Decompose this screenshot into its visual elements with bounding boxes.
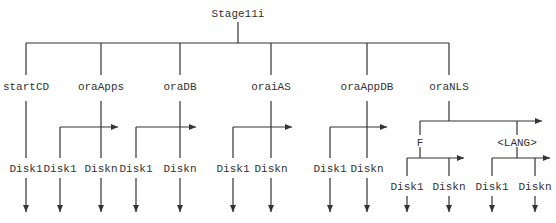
node-oraiAS: oraiAS (251, 81, 291, 93)
level1-connectors (26, 43, 449, 75)
startCD-disk1: Disk1 (9, 163, 42, 175)
oraNLS-LANG-disk1: Disk1 (475, 181, 508, 193)
oraNLS-subgroup-F: F (417, 137, 424, 149)
oraApps-diskn: Diskn (84, 163, 117, 175)
oraDB-branch (136, 101, 196, 212)
oraDB-diskn: Diskn (163, 163, 196, 175)
oraAppDB-branch (330, 101, 387, 212)
oraNLS-F-disk1: Disk1 (390, 181, 423, 193)
oraNLS-subgroup-LANG: <LANG> (497, 137, 537, 149)
node-oraApps: oraApps (78, 81, 124, 93)
oraAppDB-diskn: Diskn (350, 163, 383, 175)
node-oraNLS: oraNLS (429, 81, 469, 93)
node-startCD: startCD (3, 81, 50, 93)
node-oraDB: oraDB (163, 81, 196, 93)
oraAppDB-disk1: Disk1 (313, 163, 346, 175)
root-node-label: Stage11i (212, 8, 265, 20)
node-oraAppDB: oraAppDB (341, 81, 394, 93)
oraiAS-branch (233, 101, 292, 212)
oraApps-branch (60, 101, 118, 212)
oraDB-disk1: Disk1 (119, 163, 152, 175)
directory-tree-diagram: Stage11i startCD oraApps oraDB oraiAS or… (0, 0, 556, 223)
oraiAS-disk1: Disk1 (216, 163, 249, 175)
oraiAS-diskn: Diskn (254, 163, 287, 175)
oraNLS-branch (407, 101, 550, 212)
oraNLS-LANG-diskn: Diskn (518, 181, 551, 193)
oraApps-disk1: Disk1 (43, 163, 76, 175)
oraNLS-F-diskn: Diskn (432, 181, 465, 193)
